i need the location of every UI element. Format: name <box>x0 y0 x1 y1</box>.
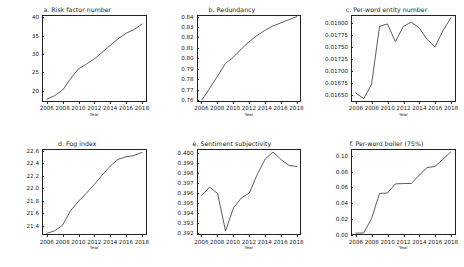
x-tick-label: 2014 <box>258 235 272 245</box>
x-axis-label: Year <box>351 112 456 117</box>
figure-panel-grid: a. Risk factor number2025303540200620082… <box>0 0 464 267</box>
y-tick-label: 0.394 <box>178 210 197 216</box>
x-axis-label: Year <box>351 245 456 250</box>
y-tick-label: 0.400 <box>178 150 197 156</box>
y-tick-label: 0.01800 <box>325 20 351 26</box>
y-tick-label: 0.08 <box>336 169 351 175</box>
y-tick-label: 0.04 <box>336 200 351 206</box>
y-tick-label: 21.4 <box>27 223 42 229</box>
x-tick-label: 2006 <box>349 235 363 245</box>
x-tick-label: 2016 <box>428 102 442 112</box>
x-tick-label: 2018 <box>444 102 458 112</box>
plot-area: 20253035402006200820102012201420162018Ye… <box>42 15 147 102</box>
plot-area: 0.760.770.780.790.800.810.820.830.842006… <box>197 15 302 102</box>
chart-panel-3: c. Per-word entity number0.016500.016750… <box>309 0 464 134</box>
y-tick-label: 0.01775 <box>325 32 351 38</box>
y-tick-label: 30 <box>32 51 42 57</box>
y-tick-label: 0.79 <box>181 66 196 72</box>
x-tick-label: 2010 <box>226 102 240 112</box>
y-tick-label: 20 <box>32 88 42 94</box>
data-series-line <box>197 15 302 102</box>
y-tick-label: 0.395 <box>178 200 197 206</box>
x-tick-label: 2008 <box>365 102 379 112</box>
x-tick-label: 2012 <box>396 102 410 112</box>
chart-panel-6: f. Per-word boiler (75%)0.000.020.040.06… <box>309 134 464 267</box>
x-tick-label: 2016 <box>273 235 287 245</box>
y-tick-label: 21.8 <box>27 198 42 204</box>
y-tick-label: 35 <box>32 33 42 39</box>
y-tick-label: 0.10 <box>336 153 351 159</box>
y-tick-label: 0.01725 <box>325 56 351 62</box>
panel-title: f. Per-word boiler (75%) <box>309 140 464 147</box>
x-axis-label: Year <box>197 112 302 117</box>
x-tick-label: 2006 <box>40 235 54 245</box>
x-tick-label: 2008 <box>55 235 69 245</box>
x-axis-label: Year <box>197 245 302 250</box>
y-tick-label: 21.6 <box>27 210 42 216</box>
x-tick-label: 2008 <box>365 235 379 245</box>
y-tick-label: 0.02 <box>336 216 351 222</box>
x-tick-label: 2012 <box>242 102 256 112</box>
y-tick-label: 0.77 <box>181 87 196 93</box>
data-series-line <box>42 149 147 236</box>
x-tick-label: 2012 <box>87 235 101 245</box>
y-tick-label: 0.82 <box>181 34 196 40</box>
x-tick-label: 2010 <box>381 235 395 245</box>
panel-title: a. Risk factor number <box>0 6 155 13</box>
x-tick-label: 2012 <box>396 235 410 245</box>
x-tick-label: 2010 <box>71 235 85 245</box>
y-tick-label: 0.01675 <box>325 80 351 86</box>
x-tick-label: 2014 <box>103 235 117 245</box>
x-tick-label: 2010 <box>71 102 85 112</box>
panel-title: e. Sentiment subjectivity <box>155 140 310 147</box>
x-tick-label: 2016 <box>119 102 133 112</box>
y-tick-label: 0.80 <box>181 55 196 61</box>
data-series-line <box>197 149 302 236</box>
y-tick-label: 40 <box>32 14 42 20</box>
y-tick-label: 0.81 <box>181 45 196 51</box>
data-series-line <box>351 149 456 236</box>
x-axis-label: Year <box>42 112 147 117</box>
plot-area: 0.016500.016750.017000.017250.017500.017… <box>351 15 456 102</box>
y-tick-label: 0.78 <box>181 76 196 82</box>
panel-title: c. Per-word entity number <box>309 6 464 13</box>
y-tick-label: 0.84 <box>181 14 196 20</box>
y-tick-label: 0.01700 <box>325 68 351 74</box>
x-tick-label: 2014 <box>103 102 117 112</box>
x-tick-label: 2018 <box>444 235 458 245</box>
x-tick-label: 2006 <box>194 102 208 112</box>
chart-panel-1: a. Risk factor number2025303540200620082… <box>0 0 155 134</box>
x-tick-label: 2008 <box>210 235 224 245</box>
x-tick-label: 2008 <box>55 102 69 112</box>
y-tick-label: 0.398 <box>178 170 197 176</box>
x-tick-label: 2018 <box>289 102 303 112</box>
x-tick-label: 2016 <box>428 235 442 245</box>
x-tick-label: 2014 <box>258 102 272 112</box>
data-series-line <box>351 15 456 102</box>
y-tick-label: 22.4 <box>27 160 42 166</box>
x-tick-label: 2010 <box>226 235 240 245</box>
y-tick-label: 0.01750 <box>325 44 351 50</box>
x-axis-label: Year <box>42 245 147 250</box>
y-tick-label: 22.6 <box>27 148 42 154</box>
x-tick-label: 2006 <box>194 235 208 245</box>
y-tick-label: 0.397 <box>178 180 197 186</box>
x-tick-label: 2016 <box>273 102 287 112</box>
y-tick-label: 0.83 <box>181 24 196 30</box>
y-tick-label: 0.399 <box>178 160 197 166</box>
y-tick-label: 0.396 <box>178 190 197 196</box>
chart-panel-5: e. Sentiment subjectivity0.3920.3930.394… <box>155 134 310 267</box>
x-tick-label: 2018 <box>135 235 149 245</box>
x-tick-label: 2006 <box>40 102 54 112</box>
y-tick-label: 22.0 <box>27 185 42 191</box>
x-tick-label: 2006 <box>349 102 363 112</box>
y-tick-label: 25 <box>32 69 42 75</box>
plot-area: 0.000.020.040.060.080.102006200820102012… <box>351 149 456 236</box>
panel-title: b. Redundancy <box>155 6 310 13</box>
x-tick-label: 2012 <box>242 235 256 245</box>
y-tick-label: 22.2 <box>27 173 42 179</box>
chart-panel-4: d. Fog index21.421.621.822.022.222.422.6… <box>0 134 155 267</box>
x-tick-label: 2014 <box>412 102 426 112</box>
x-tick-label: 2012 <box>87 102 101 112</box>
x-tick-label: 2014 <box>412 235 426 245</box>
